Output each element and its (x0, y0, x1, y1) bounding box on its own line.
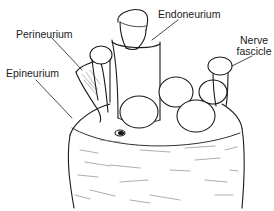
label-perineurium: Perineurium (16, 29, 73, 40)
nerve-fascicle-leader (232, 56, 252, 66)
label-nerve-fascicle-line2: fascicle (236, 46, 272, 57)
endoneurium-leader (152, 20, 178, 40)
fascicles-cluster (120, 77, 227, 132)
label-endoneurium: Endoneurium (158, 9, 220, 20)
epineurium-leader (36, 80, 72, 118)
label-epineurium: Epineurium (6, 68, 59, 79)
perineurium-leader (52, 38, 82, 70)
nerve-anatomy-diagram: Perineurium Epineurium Endoneurium Nerve… (0, 0, 274, 211)
small-fascicle-left (90, 46, 112, 102)
